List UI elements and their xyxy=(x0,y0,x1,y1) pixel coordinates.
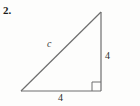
hypotenuse-line xyxy=(21,12,101,91)
hypotenuse-label: c xyxy=(47,38,51,49)
right-triangle-drawing xyxy=(0,0,140,106)
vertical-leg-label: 4 xyxy=(105,50,110,61)
geometry-figure: 2. c 4 4 xyxy=(0,0,140,106)
right-angle-marker-icon xyxy=(92,82,101,91)
horizontal-leg-label: 4 xyxy=(58,92,63,103)
